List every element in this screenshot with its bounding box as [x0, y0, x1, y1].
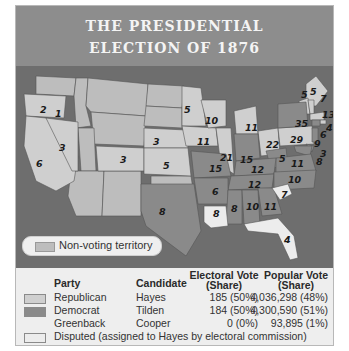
ev-label: 8	[231, 203, 238, 214]
row-candidate: Hayes	[136, 291, 166, 303]
state-arkansas	[194, 178, 228, 204]
state-nebraska	[144, 128, 188, 148]
ev-label: 8	[213, 208, 220, 219]
ev-label: 11	[264, 201, 277, 212]
row-party: Republican	[54, 291, 107, 303]
ev-label: 3	[59, 142, 66, 153]
row-popular: 4,036,298 (48%)	[242, 291, 328, 303]
ev-label: 3	[153, 136, 160, 147]
ev-label: 3	[120, 154, 127, 165]
ev-label: 10	[205, 115, 218, 126]
col-header-popular: Popular Vote (Share)	[262, 270, 330, 290]
ev-label: 22	[266, 139, 279, 150]
ev-label: 13	[322, 109, 333, 120]
row-candidate: Cooper	[136, 317, 170, 329]
ev-label: 5	[163, 160, 170, 171]
ev-label: 11	[197, 136, 210, 147]
ev-label: 5	[279, 153, 286, 164]
ev-label: 8	[159, 206, 166, 217]
title-line-2: ELECTION OF 1876	[16, 40, 333, 56]
title-line-1: THE PRESIDENTIAL	[16, 18, 333, 34]
ev-label: 6	[212, 186, 219, 197]
ev-label: 8	[316, 156, 323, 167]
state-connecticut	[312, 120, 320, 126]
disputed-swatch	[24, 333, 46, 343]
col-header-electoral-line2: (Share)	[188, 280, 260, 290]
ev-label: 7	[281, 189, 288, 200]
territory-utah	[78, 128, 96, 171]
territory-wyoming	[91, 112, 146, 146]
election-map-figure: THE PRESIDENTIAL ELECTION OF 1876	[15, 5, 334, 346]
ev-label: 7	[320, 93, 327, 104]
results-table: Party Candidate Electoral Vote (Share) P…	[16, 268, 333, 345]
col-header-popular-line2: (Share)	[262, 280, 330, 290]
republican-swatch	[24, 294, 46, 304]
disputed-note: Disputed (assigned to Hayes by electoral…	[54, 330, 307, 342]
territory-washington	[36, 76, 76, 96]
territory-north-dakota	[146, 84, 184, 108]
us-map: 2 1 6 3 3 3 5 5 10 11 21 15 11 22 29 35 …	[16, 66, 333, 268]
ev-label: 21	[220, 152, 233, 163]
ev-label: 5	[310, 86, 317, 97]
ev-label: 10	[246, 201, 259, 212]
ev-label: 12	[248, 179, 261, 190]
ev-label: 6	[36, 158, 43, 169]
ev-label: 12	[251, 164, 264, 175]
ev-label: 4	[284, 234, 291, 245]
ev-label: 5	[184, 104, 191, 115]
col-header-electoral: Electoral Vote (Share)	[188, 270, 260, 290]
ev-label: 29	[290, 134, 303, 145]
ev-label: 11	[245, 122, 258, 133]
ev-label: 2	[40, 104, 47, 115]
row-party: Greenback	[54, 317, 105, 329]
ev-label: 15	[209, 163, 222, 174]
row-popular: 4,300,590 (51%)	[242, 304, 328, 316]
row-candidate: Tilden	[136, 304, 164, 316]
territory-south-dakota	[144, 106, 182, 128]
row-popular: 93,895 (1%)	[242, 317, 328, 329]
ev-label: 35	[295, 118, 308, 129]
col-header-party: Party	[54, 278, 80, 288]
non-voting-legend: Non-voting territory	[22, 236, 162, 256]
non-voting-swatch	[35, 242, 55, 252]
col-header-candidate: Candidate	[136, 278, 187, 288]
territory-montana	[86, 78, 148, 116]
territory-new-mexico	[102, 171, 141, 216]
ev-label: 11	[291, 158, 304, 169]
title-banner: THE PRESIDENTIAL ELECTION OF 1876	[16, 6, 333, 66]
ev-label: 5	[301, 89, 308, 100]
democrat-swatch	[24, 307, 46, 317]
ev-label: 1	[55, 108, 62, 119]
row-party: Democrat	[54, 304, 100, 316]
ev-label: 10	[288, 174, 301, 185]
non-voting-label: Non-voting territory	[59, 239, 153, 251]
